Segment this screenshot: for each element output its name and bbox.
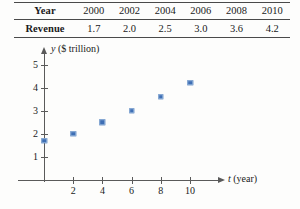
table-cell-revenue: 3.6 <box>219 23 255 34</box>
x-axis-tick-label: 8 <box>152 185 170 196</box>
data-point <box>187 80 193 86</box>
table-cell-year: 2008 <box>219 5 255 16</box>
scatter-chart: y ($ trillion) t (year) 12345246810 <box>0 40 300 209</box>
y-axis-tick-label: 1 <box>22 151 38 162</box>
y-axis-label-unit: ($ trillion) <box>58 43 99 54</box>
table-cell-year: 2010 <box>254 5 290 16</box>
x-axis-tick-label: 6 <box>123 185 141 196</box>
table-cell-revenue: 3.0 <box>183 23 219 34</box>
x-axis-tick-label: 2 <box>64 185 82 196</box>
data-point <box>158 94 164 100</box>
table-row-header-year: Year <box>14 5 76 16</box>
y-axis-line <box>44 53 45 182</box>
y-axis-tick <box>41 157 48 158</box>
data-point <box>70 131 76 137</box>
x-axis-tick <box>132 177 133 184</box>
table-cell-revenue: 2.5 <box>147 23 183 34</box>
figure-page: Year 2000 2002 2004 2006 2008 2010 Reven… <box>0 0 300 209</box>
x-axis-tick-label: 10 <box>181 185 199 196</box>
data-point <box>129 108 135 114</box>
x-axis-tick <box>73 177 74 184</box>
table-cell-year: 2004 <box>147 5 183 16</box>
y-axis-label-variable: y <box>51 43 55 54</box>
x-axis-arrow-icon <box>218 177 225 183</box>
y-axis-label: y ($ trillion) <box>51 43 99 54</box>
table-cell-revenue: 2.0 <box>112 23 148 34</box>
x-axis-label-unit: (year) <box>233 173 257 184</box>
table-cell-revenue: 1.7 <box>76 23 112 34</box>
table-cell-revenue: 4.2 <box>254 23 290 34</box>
table-cell-year: 2002 <box>112 5 148 16</box>
y-axis-tick <box>41 65 48 66</box>
data-point <box>41 138 47 144</box>
revenue-data-table: Year 2000 2002 2004 2006 2008 2010 Reven… <box>14 2 290 38</box>
x-axis-tick <box>102 177 103 184</box>
y-axis-tick <box>41 88 48 89</box>
y-axis-tick-label: 3 <box>22 105 38 116</box>
x-axis-tick <box>161 177 162 184</box>
x-axis-label: t (year) <box>228 173 257 184</box>
table-row: Year 2000 2002 2004 2006 2008 2010 <box>14 2 290 19</box>
table-row: Revenue 1.7 2.0 2.5 3.0 3.6 4.2 <box>14 20 290 37</box>
data-point <box>100 120 106 126</box>
y-axis-tick-label: 4 <box>22 82 38 93</box>
y-axis-tick-label: 2 <box>22 128 38 139</box>
y-axis-tick-label: 5 <box>22 59 38 70</box>
y-axis-tick <box>41 134 48 135</box>
y-axis-tick <box>41 111 48 112</box>
y-axis-arrow-icon <box>41 47 47 54</box>
table-cell-year: 2000 <box>76 5 112 16</box>
x-axis-tick-label: 4 <box>93 185 111 196</box>
x-axis-tick <box>190 177 191 184</box>
x-axis-label-variable: t <box>228 173 231 184</box>
table-row-header-revenue: Revenue <box>14 23 76 34</box>
table-rule-bottom <box>14 37 290 38</box>
table-cell-year: 2006 <box>183 5 219 16</box>
plot-area: y ($ trillion) t (year) 12345246810 <box>0 40 300 209</box>
